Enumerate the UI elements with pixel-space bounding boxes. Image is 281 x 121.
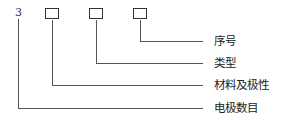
- leader-horizontal-type: [96, 63, 203, 64]
- label-material-polarity: 材料及极性: [214, 78, 269, 92]
- label-type: 类型: [214, 56, 236, 70]
- leader-vertical-electrode-count: [18, 19, 19, 108]
- leader-vertical-material: [52, 20, 53, 85]
- label-serial: 序号: [214, 34, 236, 48]
- leader-horizontal-material: [52, 85, 203, 86]
- code-box-type: [89, 8, 103, 19]
- leader-horizontal-serial: [140, 41, 203, 42]
- leader-vertical-type: [96, 20, 97, 63]
- leader-vertical-serial: [140, 20, 141, 41]
- code-box-material: [45, 8, 59, 19]
- label-electrode-count: 电极数目: [214, 101, 258, 115]
- prefix-number: 3: [15, 7, 22, 19]
- code-box-serial: [133, 8, 147, 19]
- leader-horizontal-electrode-count: [18, 108, 203, 109]
